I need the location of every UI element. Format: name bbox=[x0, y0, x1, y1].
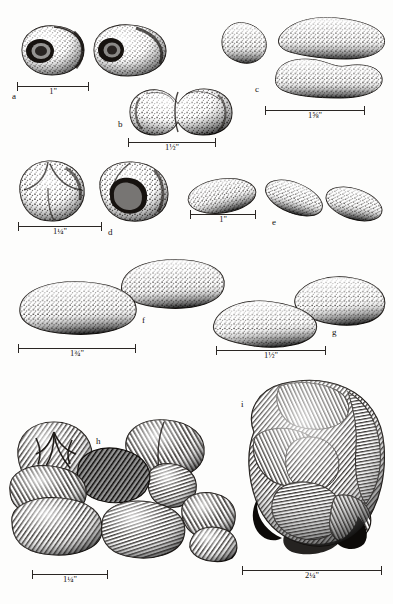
figure-label-e: e bbox=[272, 218, 276, 227]
illustration-plate: 1" a bbox=[0, 0, 393, 604]
figure-label-h: h bbox=[96, 437, 101, 446]
specimen-f2 bbox=[121, 260, 224, 309]
specimen-e2 bbox=[261, 173, 328, 223]
scale-value-g: 1½" bbox=[216, 350, 326, 360]
specimen-h7 bbox=[102, 501, 185, 558]
figure-label-d: d bbox=[108, 228, 113, 237]
specimen-a2 bbox=[94, 25, 166, 76]
figure-c-specimens bbox=[218, 14, 388, 100]
figure-label-a: a bbox=[12, 92, 16, 101]
scale-bar-f: 1¾" bbox=[18, 344, 136, 356]
scale-value-a: 1" bbox=[17, 86, 89, 96]
scale-bar-d: 1¼" bbox=[18, 222, 102, 234]
scale-value-c: 1⅝" bbox=[265, 110, 365, 120]
figure-a-specimens bbox=[14, 20, 174, 82]
figure-label-i: i bbox=[241, 400, 244, 409]
figure-f-specimens bbox=[14, 258, 224, 338]
specimen-e3 bbox=[322, 181, 386, 227]
specimen-i1 bbox=[249, 381, 384, 555]
specimen-d1 bbox=[20, 161, 84, 221]
scale-bar-h: 1¼" bbox=[32, 570, 108, 582]
figure-label-b: b bbox=[118, 120, 123, 129]
figure-g-specimens bbox=[210, 272, 388, 350]
scale-value-i: 2¼" bbox=[242, 570, 382, 580]
scale-bar-i: 2¼" bbox=[242, 566, 382, 578]
scale-value-h: 1¼" bbox=[32, 574, 108, 584]
specimen-a1 bbox=[22, 26, 84, 75]
figure-label-f: f bbox=[142, 316, 145, 325]
figure-h-specimens bbox=[6, 412, 236, 564]
specimen-c2 bbox=[278, 18, 384, 59]
scale-bar-e: 1" bbox=[190, 210, 256, 222]
scale-value-f: 1¾" bbox=[18, 348, 136, 358]
scale-value-d: 1¼" bbox=[18, 226, 102, 236]
specimen-h6 bbox=[12, 498, 102, 555]
specimen-f1 bbox=[20, 282, 136, 335]
scale-bar-b: 1½" bbox=[128, 138, 216, 150]
specimen-b1 bbox=[130, 89, 232, 135]
figure-i-specimens bbox=[224, 378, 393, 560]
scale-bar-c: 1⅝" bbox=[265, 106, 365, 118]
specimen-d2 bbox=[100, 162, 168, 221]
figure-label-g: g bbox=[332, 328, 337, 337]
specimen-c3 bbox=[276, 59, 383, 98]
figure-d-specimens bbox=[14, 158, 174, 226]
figure-label-c: c bbox=[255, 85, 259, 94]
scale-bar-g: 1½" bbox=[216, 346, 326, 358]
scale-value-b: 1½" bbox=[128, 142, 216, 152]
scale-bar-a: 1" bbox=[17, 82, 89, 94]
scale-value-e: 1" bbox=[190, 214, 256, 224]
specimen-c1 bbox=[222, 23, 266, 64]
